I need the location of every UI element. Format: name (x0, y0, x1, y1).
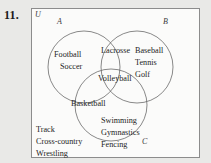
region-outside-sets: Track Cross-country Wrestling (36, 124, 82, 160)
set-label-c: C (142, 137, 147, 146)
region-item: Baseball (135, 45, 163, 57)
region-item: Gymnastics (101, 127, 140, 139)
region-item: Swimming (101, 115, 140, 127)
venn-diagram-box: U A B C Football Soccer Lacrosse Basebal… (31, 8, 200, 158)
universe-label: U (35, 10, 41, 19)
region-item: Basketball (71, 98, 106, 110)
region-item: Wrestling (36, 148, 82, 160)
region-item: Football (54, 49, 82, 61)
region-item: Fencing (101, 139, 140, 151)
region-item: Track (36, 124, 82, 136)
problem-number: 11. (4, 8, 19, 23)
region-a-only: Football Soccer (54, 49, 82, 73)
worksheet-page: 11. U A B C Football Soccer Lacrosse Bas… (0, 0, 211, 163)
set-label-a: A (57, 17, 62, 26)
region-a-and-c: Basketball (71, 98, 106, 110)
region-item: Soccer (54, 61, 82, 73)
region-c-only: Swimming Gymnastics Fencing (101, 115, 140, 151)
set-label-b: B (163, 17, 168, 26)
region-item: Volleyball (98, 73, 132, 85)
region-item: Golf (135, 69, 163, 81)
region-item: Cross-country (36, 136, 82, 148)
region-b-only: Baseball Tennis Golf (135, 45, 163, 81)
region-a-and-b-and-c: Volleyball (98, 73, 132, 85)
region-item: Tennis (135, 57, 163, 69)
region-item: Lacrosse (101, 45, 130, 57)
region-a-and-b: Lacrosse (101, 45, 130, 57)
